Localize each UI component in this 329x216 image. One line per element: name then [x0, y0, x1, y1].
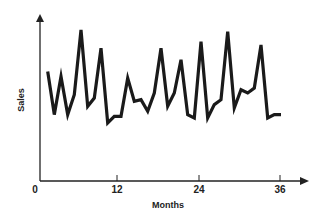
x-tick-label-0: 0 [32, 184, 38, 195]
y-axis-arrow-icon [36, 14, 44, 22]
y-axis-title: Sales [16, 88, 26, 112]
x-axis-arrow-icon [300, 177, 309, 185]
x-axis-title: Months [152, 200, 184, 210]
x-tick-label-12: 12 [111, 184, 123, 195]
sales-line-chart: 0 12 24 36 Months Sales [0, 0, 329, 216]
x-tick-label-24: 24 [193, 184, 205, 195]
x-tick-label-36: 36 [274, 184, 286, 195]
sales-series-line [48, 30, 281, 123]
